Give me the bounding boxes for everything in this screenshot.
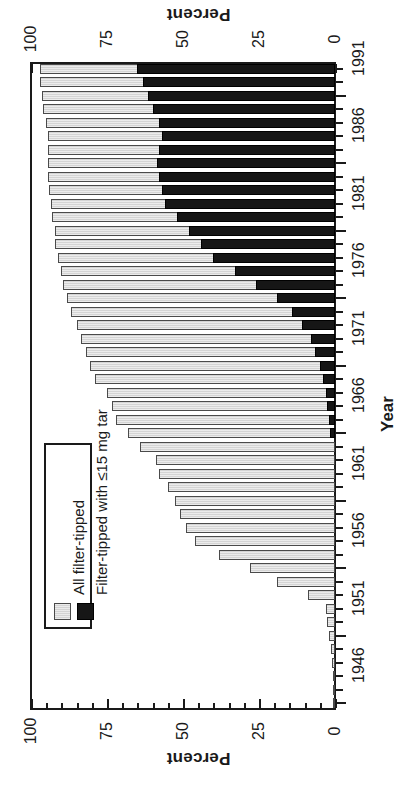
bar-all-filter-tipped [86,347,335,357]
bar-group [0,307,397,317]
bar-low-tar [148,91,335,101]
bar-low-tar [302,320,335,330]
bar-all-filter-tipped [128,428,335,438]
legend-swatch [54,603,71,620]
bar-low-tar [159,172,335,182]
bar-low-tar [329,415,335,425]
bar-low-tar [159,145,335,155]
bar-group [0,428,397,438]
bar-group [0,280,397,290]
bar-all-filter-tipped [308,590,335,600]
bar-all-filter-tipped [140,442,335,452]
bar-group [0,658,397,668]
bar-group [0,631,397,641]
bar-all-filter-tipped [156,455,335,465]
bar-group [0,293,397,303]
bar-low-tar [330,428,335,438]
bar-low-tar [201,239,335,249]
bar-all-filter-tipped [329,631,335,641]
bar-all-filter-tipped [175,496,335,506]
bar-low-tar [159,118,335,128]
bar-group [0,226,397,236]
bar-group [0,644,397,654]
bar-all-filter-tipped [195,536,335,546]
legend-label: All filter-tipped [70,500,87,595]
bar-group [0,685,397,695]
bar-low-tar [137,64,335,74]
bar-group [0,415,397,425]
bar-group [0,104,397,114]
bar-group [0,239,397,249]
bar-all-filter-tipped [333,671,335,681]
bar-group [0,698,397,708]
bar-all-filter-tipped [331,644,335,654]
bar-low-tar [323,374,335,384]
legend: All filter-tippedFilter-tipped with ≤15 … [44,443,92,629]
bar-all-filter-tipped [277,577,335,587]
bar-low-tar [326,388,335,398]
bar-group [0,671,397,681]
bar-group [0,320,397,330]
bar-group [0,388,397,398]
bar-low-tar [162,131,335,141]
bar-low-tar [143,77,335,87]
bar-all-filter-tipped [180,509,335,519]
bar-all-filter-tipped [112,401,335,411]
bar-low-tar [320,361,335,371]
bar-group [0,212,397,222]
bar-all-filter-tipped [81,334,335,344]
bar-group [0,185,397,195]
bar-all-filter-tipped [186,523,335,533]
bar-all-filter-tipped [333,698,335,708]
legend-label: Filter-tipped with ≤15 mg tar [93,409,110,595]
bar-group [0,145,397,155]
bars-layer [0,0,397,789]
bar-all-filter-tipped [219,550,335,560]
bar-group [0,64,397,74]
bar-group [0,91,397,101]
bar-all-filter-tipped [327,617,335,627]
bar-low-tar [292,307,335,317]
bar-low-tar [277,293,335,303]
bar-low-tar [177,212,335,222]
bar-all-filter-tipped [159,469,335,479]
bar-all-filter-tipped [90,361,335,371]
bar-group [0,172,397,182]
bar-group [0,334,397,344]
legend-swatch [77,603,94,620]
bar-group [0,266,397,276]
bar-low-tar [153,104,335,114]
bar-low-tar [165,199,335,209]
bar-group [0,77,397,87]
bar-group [0,131,397,141]
bar-all-filter-tipped [250,563,335,573]
bar-group [0,199,397,209]
bar-group [0,158,397,168]
bar-group [0,253,397,263]
bar-low-tar [157,158,335,168]
bar-group [0,347,397,357]
bar-all-filter-tipped [116,415,335,425]
bar-low-tar [311,334,335,344]
bar-all-filter-tipped [326,604,335,614]
bar-low-tar [256,280,335,290]
bar-group [0,374,397,384]
bar-all-filter-tipped [95,374,335,384]
bar-low-tar [213,253,335,263]
bar-low-tar [235,266,335,276]
bar-chart-figure: Percent Percent 1007550250 1007550250 19… [0,0,397,789]
bar-all-filter-tipped [333,685,335,695]
bar-group [0,118,397,128]
bar-all-filter-tipped [77,320,335,330]
bar-low-tar [162,185,335,195]
bar-group [0,401,397,411]
bar-all-filter-tipped [107,388,335,398]
bar-all-filter-tipped [332,658,335,668]
bar-group [0,361,397,371]
bar-low-tar [327,401,335,411]
bar-low-tar [315,347,335,357]
bar-low-tar [189,226,335,236]
bar-all-filter-tipped [168,482,335,492]
